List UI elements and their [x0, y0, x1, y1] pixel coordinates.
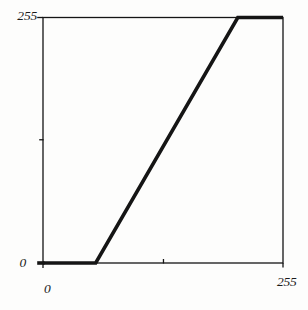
axis-box [43, 18, 283, 264]
contrast-stretch-figure: 255 0 0 255 [0, 0, 308, 310]
tick-group [39, 140, 163, 264]
plot-area [0, 0, 308, 310]
transfer-function-curve [43, 18, 283, 264]
